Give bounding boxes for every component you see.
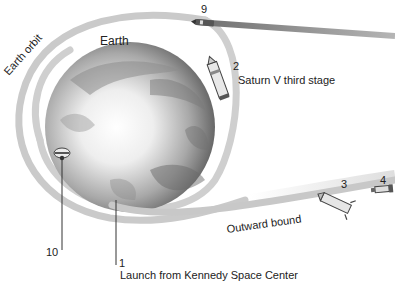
step-4-label: 4: [380, 175, 386, 186]
diagram-graphics: [0, 0, 395, 290]
step-9-label: 9: [201, 4, 207, 15]
earth-globe: [45, 42, 215, 212]
saturn-v-third-stage-label: Saturn V third stage: [238, 75, 335, 86]
step-3-label: 3: [341, 179, 347, 190]
saturn-v-third-stage-icon: [205, 55, 230, 101]
step-2-label: 2: [233, 61, 239, 72]
earth-label: Earth: [100, 35, 129, 47]
step-1-label: 1: [119, 258, 125, 269]
mission-diagram: Earth orbit Earth 9 2 Saturn V third sta…: [0, 0, 395, 290]
launch-label: Launch from Kennedy Space Center: [120, 270, 298, 281]
step-10-label: 10: [46, 247, 58, 258]
